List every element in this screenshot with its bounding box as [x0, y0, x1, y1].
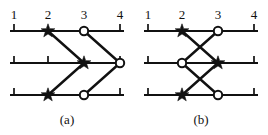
position-label-1: 1	[11, 7, 18, 22]
figure-root: 1234(a) 1234(b)	[0, 0, 268, 135]
panel-a: 1234(a)	[0, 0, 134, 135]
position-label-3: 3	[215, 7, 222, 22]
panel-b-diagram: 1234(b)	[134, 0, 268, 135]
marker-open-circle	[214, 27, 222, 35]
position-label-2: 2	[179, 7, 186, 22]
marker-open-circle	[80, 91, 88, 99]
position-label-3: 3	[81, 7, 88, 22]
panel-b: 1234(b)	[134, 0, 268, 135]
position-label-4: 4	[251, 7, 258, 22]
marker-open-circle	[80, 27, 88, 35]
panel-caption-b: (b)	[193, 112, 208, 127]
marker-open-circle	[116, 59, 124, 67]
position-label-1: 1	[145, 7, 152, 22]
panel-caption-a: (a)	[60, 112, 74, 127]
connector-circle	[84, 63, 120, 95]
connector-star	[48, 31, 84, 63]
panel-a-diagram: 1234(a)	[0, 0, 134, 135]
position-label-2: 2	[45, 7, 52, 22]
marker-open-circle	[214, 91, 222, 99]
marker-open-circle	[178, 59, 186, 67]
position-label-4: 4	[117, 7, 124, 22]
connector-circle	[84, 31, 120, 63]
connector-star	[48, 63, 84, 95]
